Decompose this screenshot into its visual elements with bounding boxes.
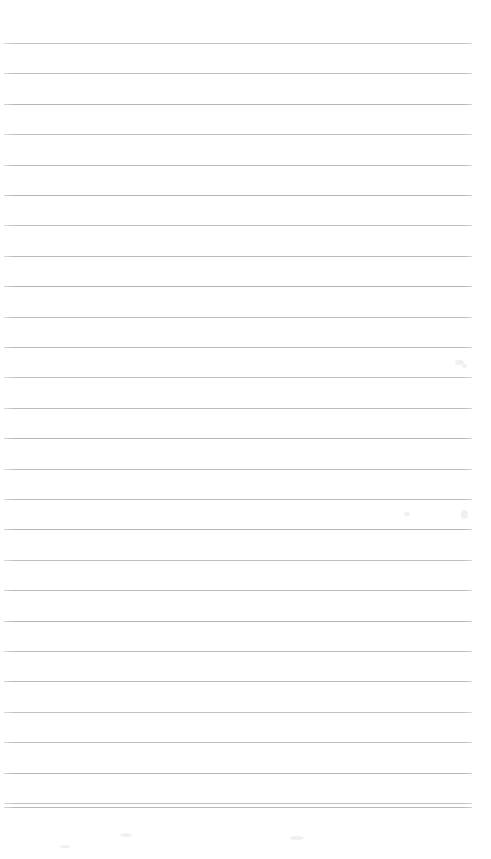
- rule-line: [4, 286, 472, 287]
- rule-line: [4, 408, 472, 409]
- rule-line: [4, 803, 472, 804]
- rule-line: [4, 712, 472, 713]
- rule-line: [4, 529, 472, 530]
- rule-line: [4, 651, 472, 652]
- rule-line: [4, 73, 472, 74]
- rule-line: [4, 742, 472, 743]
- rule-line: [4, 590, 472, 591]
- rule-line: [4, 499, 472, 500]
- scanned-page: [0, 0, 491, 859]
- rule-line: [4, 560, 472, 561]
- rule-line: [4, 377, 472, 378]
- rule-line: [4, 43, 472, 44]
- rule-line: [4, 773, 472, 774]
- rule-line: [4, 165, 472, 166]
- rule-line: [4, 225, 472, 226]
- rule-line: [4, 134, 472, 135]
- rule-line: [4, 104, 472, 105]
- rule-line: [4, 621, 472, 622]
- rule-line: [4, 317, 472, 318]
- rule-line: [4, 807, 472, 808]
- rule-line: [4, 438, 472, 439]
- rule-line: [4, 195, 472, 196]
- ruled-lines-layer: [0, 0, 491, 859]
- rule-line: [4, 469, 472, 470]
- rule-line: [4, 256, 472, 257]
- rule-line: [4, 347, 472, 348]
- rule-line: [4, 681, 472, 682]
